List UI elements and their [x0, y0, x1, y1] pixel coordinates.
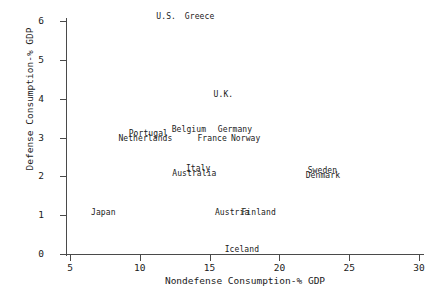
- x-tick-label: 25: [339, 263, 359, 273]
- x-tick-mark: [210, 255, 211, 261]
- x-tick-mark: [349, 255, 350, 261]
- scatter-plot-figure: 0123456 51015202530 U.S.GreeceU.K.Portug…: [0, 0, 434, 294]
- y-tick-mark: [60, 176, 66, 177]
- data-point-label: Australia: [172, 170, 216, 178]
- x-tick-label: 5: [60, 263, 80, 273]
- data-point-label: Belgium: [172, 126, 206, 134]
- x-tick-mark: [70, 255, 71, 261]
- data-point-label: Greece: [185, 13, 215, 21]
- y-axis-title: Defense Consumption-% GDP: [25, 9, 35, 189]
- y-axis-line: [66, 18, 67, 256]
- y-tick-mark: [60, 60, 66, 61]
- data-point-label: Germany: [218, 126, 252, 134]
- x-axis-line: [66, 254, 424, 255]
- y-tick-mark: [60, 138, 66, 139]
- data-point-label: France: [197, 135, 227, 143]
- y-tick-mark: [60, 99, 66, 100]
- x-tick-label: 15: [200, 263, 220, 273]
- data-point-label: Japan: [91, 209, 116, 217]
- x-tick-mark: [279, 255, 280, 261]
- x-tick-label: 20: [269, 263, 289, 273]
- data-point-label: U.K.: [214, 91, 234, 99]
- x-tick-label: 10: [130, 263, 150, 273]
- data-point-label: Finland: [241, 209, 275, 217]
- data-point-label: Netherlands: [118, 135, 172, 143]
- x-tick-mark: [140, 255, 141, 261]
- y-tick-label: 1: [18, 210, 44, 220]
- data-point-label: Iceland: [225, 246, 259, 254]
- y-tick-mark: [60, 21, 66, 22]
- data-point-label: Norway: [231, 135, 261, 143]
- x-tick-label: 30: [409, 263, 429, 273]
- y-tick-mark: [60, 254, 66, 255]
- data-point-label: Denmark: [306, 172, 340, 180]
- x-tick-mark: [419, 255, 420, 261]
- x-axis-title: Nondefense Consumption-% GDP: [66, 276, 424, 286]
- y-tick-label: 0: [18, 249, 44, 259]
- y-tick-mark: [60, 215, 66, 216]
- data-point-label: U.S.: [156, 13, 176, 21]
